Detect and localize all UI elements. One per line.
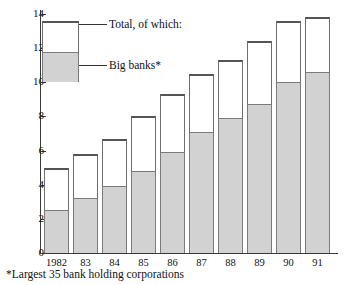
bar-big-banks-90	[276, 82, 301, 253]
legend-label-total: Total, of which:	[109, 18, 182, 31]
bar-big-banks-87	[189, 132, 214, 253]
y-axis-tick-label: 14	[16, 8, 44, 19]
y-axis-tick-label: 12	[16, 42, 44, 53]
chart-footnote: *Largest 35 bank holding corporations	[6, 268, 184, 281]
bar-big-banks-86	[160, 152, 185, 253]
bank-assets-stacked-bar-chart: 02468101214 1982838485868788899091 Total…	[0, 0, 358, 285]
legend-key-big-banks-swatch	[42, 52, 79, 82]
y-axis-tick-label: 4	[16, 179, 44, 190]
bar-big-banks-91	[305, 72, 330, 253]
bar-big-banks-1982	[44, 210, 69, 253]
bar-big-banks-88	[218, 118, 243, 253]
y-axis-tick-label: 10	[16, 76, 44, 87]
bar-big-banks-89	[247, 104, 272, 253]
bar-big-banks-83	[73, 198, 98, 253]
legend-leader-line-total	[79, 24, 107, 25]
x-axis-line	[40, 253, 338, 254]
bar-big-banks-84	[102, 186, 127, 253]
bar-big-banks-85	[131, 171, 156, 253]
y-axis-tick-label: 8	[16, 110, 44, 121]
legend-leader-line-big-banks	[79, 65, 107, 66]
y-axis-tick-label: 6	[16, 145, 44, 156]
plot-area: 02468101214 1982838485868788899091 Total…	[0, 0, 358, 285]
y-axis-tick-label: 2	[16, 213, 44, 224]
x-axis-tick-label-91: 91	[295, 257, 340, 269]
legend-label-big-banks: Big banks*	[109, 59, 161, 72]
